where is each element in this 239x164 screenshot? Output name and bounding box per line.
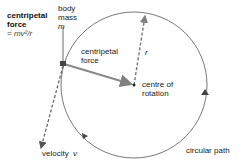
body-line-1: body <box>58 4 77 13</box>
force-line-1: centripetal <box>81 47 118 56</box>
body-mass-label: body mass m <box>58 4 77 31</box>
centre-label: centre of rotation <box>142 80 173 98</box>
force-arrow-label: centripetal force <box>81 47 118 65</box>
centripetal-force-title: centripetal force <box>7 11 47 29</box>
direction-arrow-icon <box>82 133 88 139</box>
body-line-2: mass <box>58 13 77 22</box>
force-line-2: force <box>81 56 118 65</box>
body-mass <box>60 61 66 66</box>
velocity-symbol: v <box>73 149 77 158</box>
title-line-1: centripetal <box>7 11 47 20</box>
centre-line-1: centre of <box>142 80 173 89</box>
body-line-3: m <box>58 22 77 31</box>
title-line-2: force <box>7 20 47 29</box>
velocity-arrow <box>41 66 63 148</box>
centripetal-force-formula: = mv²/r <box>7 29 32 38</box>
direction-arrow-icon <box>201 89 209 95</box>
circular-path-label: circular path <box>186 146 230 155</box>
velocity-text: velocity <box>42 149 69 158</box>
radius-label: r <box>145 48 148 57</box>
velocity-label: velocity v <box>42 149 77 158</box>
centre-of-rotation-dot <box>133 84 136 87</box>
centripetal-force-arrow <box>64 64 131 84</box>
centre-line-2: rotation <box>142 89 173 98</box>
radius-line <box>134 16 145 85</box>
